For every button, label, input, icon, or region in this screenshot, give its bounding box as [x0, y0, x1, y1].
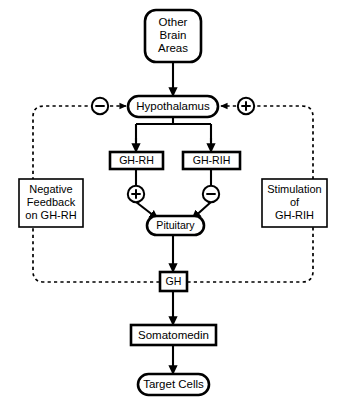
- node-somatomedin[interactable]: Somatomedin: [131, 325, 216, 345]
- node-gh-rh[interactable]: GH-RH: [110, 152, 163, 169]
- sign-plus-pituitary: [128, 186, 144, 202]
- node-other-brain-areas[interactable]: Other Brain Areas: [145, 10, 201, 62]
- other-brain-areas-line2: Brain: [160, 29, 187, 41]
- gh-regulation-flowchart: Other Brain Areas Hypothalamus GH-RH GH-…: [0, 0, 345, 410]
- stimulation-line1: Stimulation: [267, 183, 321, 195]
- other-brain-areas-line3: Areas: [158, 42, 188, 54]
- node-pituitary[interactable]: Pituitary: [147, 216, 204, 235]
- node-gh[interactable]: GH: [160, 272, 187, 291]
- node-hypothalamus[interactable]: Hypothalamus: [128, 96, 218, 117]
- gh-rih-label: GH-RIH: [193, 154, 231, 166]
- negative-feedback-line2: Feedback: [27, 196, 76, 208]
- pituitary-label: Pituitary: [156, 219, 195, 231]
- node-target-cells[interactable]: Target Cells: [138, 374, 209, 395]
- stimulation-line2: of: [290, 196, 300, 208]
- negative-feedback-line3: on GH-RH: [25, 209, 76, 221]
- sign-minus-hypothalamus: [92, 98, 108, 114]
- node-gh-rih[interactable]: GH-RIH: [183, 152, 240, 169]
- somatomedin-label: Somatomedin: [138, 329, 209, 341]
- sign-plus-hypothalamus: [238, 98, 254, 114]
- target-cells-label: Target Cells: [143, 378, 204, 390]
- other-brain-areas-line1: Other: [159, 16, 188, 28]
- stimulation-line3: GH-RIH: [275, 209, 314, 221]
- edge-hypothalamus-split: [136, 116, 211, 142]
- gh-rh-label: GH-RH: [119, 154, 154, 166]
- gh-label: GH: [166, 275, 182, 287]
- sign-minus-pituitary: [203, 186, 219, 202]
- diagram-canvas: Other Brain Areas Hypothalamus GH-RH GH-…: [0, 0, 345, 410]
- node-stimulation[interactable]: Stimulation of GH-RIH: [262, 179, 327, 227]
- hypothalamus-label: Hypothalamus: [136, 100, 210, 112]
- negative-feedback-line1: Negative: [29, 183, 72, 195]
- node-negative-feedback[interactable]: Negative Feedback on GH-RH: [19, 179, 83, 227]
